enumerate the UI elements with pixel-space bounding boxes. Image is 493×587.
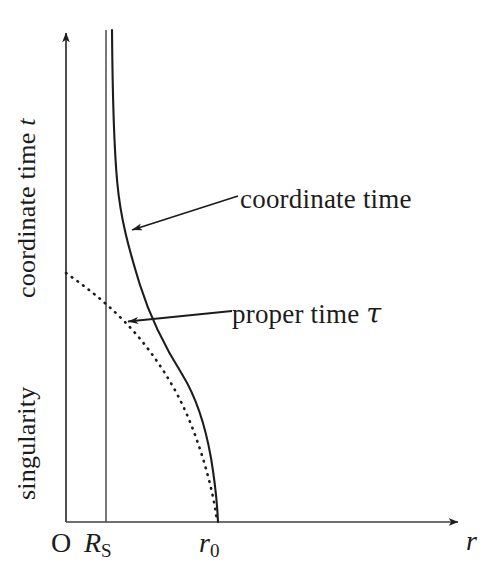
singularity-region-label: singularity: [14, 387, 40, 500]
tick-label-r0-symbol: r: [199, 527, 210, 558]
y-axis-label-text: coordinate time: [12, 126, 41, 298]
tick-label-origin: O: [51, 529, 71, 557]
tick-label-r0-subscript: 0: [210, 540, 220, 561]
annotation-proper-time-text: proper time: [232, 299, 366, 329]
annotation-coordinate-time: coordinate time: [240, 186, 412, 213]
figure-schwarzschild-infall: coordinate time t singularity coordinate…: [0, 0, 493, 587]
tick-label-rs-subscript: S: [101, 540, 112, 561]
proper-time-leader-line: [128, 311, 232, 322]
tau-symbol: τ: [366, 298, 381, 329]
annotation-proper-time: proper time τ: [232, 300, 382, 328]
coordinate-time-curve: [112, 30, 218, 522]
coordinate-time-leader-line: [132, 196, 238, 230]
x-axis-label: r: [466, 527, 477, 555]
y-axis-label: coordinate time t: [14, 118, 40, 298]
tick-label-initial-radius: r0: [199, 529, 219, 560]
tick-label-rs-symbol: R: [84, 527, 101, 558]
tick-label-schwarzschild-radius: RS: [84, 529, 112, 560]
plot-canvas: [0, 0, 493, 587]
y-axis-label-symbol: t: [12, 118, 41, 125]
